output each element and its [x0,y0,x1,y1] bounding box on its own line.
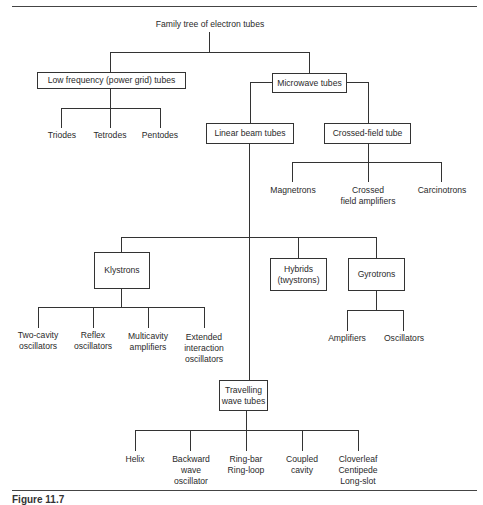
leaf-extended-interaction-oscillators: Extended interaction oscillators [184,332,224,365]
connector [209,32,210,53]
leaf-ring-bar-ring-loop: Ring-bar Ring-loop [228,454,265,476]
connector [204,307,205,328]
connector [121,237,377,238]
leaf-multicavity-amplifiers: Multicavity amplifiers [128,331,168,353]
connector [110,52,310,53]
connector [246,430,247,451]
connector [190,430,191,451]
leaf-gyro-amplifiers: Amplifiers [328,333,366,344]
leaf-magnetrons: Magnetrons [270,185,315,196]
connector [250,82,251,124]
node-low-frequency: Low frequency (power grid) tubes [37,72,186,89]
connector [376,237,377,259]
leaf-carcinotrons: Carcinotrons [418,185,467,196]
node-klystrons: Klystrons [94,252,150,289]
node-hybrids: Hybrids (twystrons) [270,258,327,291]
leaf-gyro-oscillators: Oscillators [384,333,424,344]
leaf-pentodes: Pentodes [142,130,178,141]
connector [368,82,369,124]
connector [368,144,369,163]
connector [121,289,122,308]
connector [292,162,442,163]
leaf-two-cavity-oscillators: Two-cavity oscillators [18,330,59,352]
connector [298,237,299,259]
connector [302,430,303,451]
node-travelling-wave-tubes: Travelling wave tubes [219,380,268,411]
connector [110,52,111,73]
connector [249,144,250,381]
figure-caption: Figure 11.7 [12,494,64,505]
leaf-cloverleaf-centipede-long-slot: Cloverleaf Centipede Long-slot [338,454,377,487]
node-linear-beam: Linear beam tubes [206,123,294,144]
connector [292,162,293,182]
leaf-tetrodes: Tetrodes [94,130,127,141]
leaf-triodes: Triodes [48,130,76,141]
connector [148,307,149,328]
node-crossed-field: Crossed-field tube [324,123,411,144]
connector [110,89,111,109]
connector [309,52,310,74]
connector [347,310,348,331]
connector [160,108,161,128]
node-gyrotrons: Gyrotrons [348,258,405,291]
bottom-rule [12,490,477,491]
connector [38,307,39,328]
connector [347,82,369,83]
connector [110,108,111,128]
connector [441,162,442,182]
connector [250,82,272,83]
connector [61,108,62,128]
leaf-reflex-oscillators: Reflex oscillators [74,330,112,352]
node-microwave: Microwave tubes [272,73,347,93]
leaf-coupled-cavity: Coupled cavity [286,454,318,476]
leaf-backward-wave-oscillator: Backward wave oscillator [172,454,210,487]
top-rule [12,6,477,7]
connector [246,411,247,431]
connector [38,307,205,308]
leaf-helix: Helix [125,454,144,465]
connector [368,162,369,182]
connector [358,430,359,451]
connector [403,310,404,331]
connector [121,237,122,253]
connector [135,430,136,451]
leaf-crossed-field-amplifiers: Crossed field amplifiers [341,185,396,207]
diagram-title: Family tree of electron tubes [156,19,264,30]
connector [93,307,94,328]
connector [376,291,377,311]
connector [347,310,404,311]
